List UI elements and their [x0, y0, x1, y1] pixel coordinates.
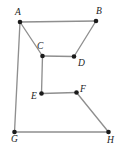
vertex-c — [40, 54, 45, 59]
vertex-label-g: G — [11, 135, 18, 145]
edge-c-e — [42, 56, 43, 94]
vertex-h — [106, 130, 111, 135]
edge-f-h — [77, 93, 109, 133]
edge-e-f — [42, 93, 77, 94]
vertex-label-e: E — [31, 92, 37, 102]
vertex-label-c: C — [37, 42, 43, 52]
graph-figure: ABCDEFGH — [0, 0, 125, 151]
edge-b-d — [74, 21, 96, 57]
vertex-e — [39, 91, 44, 96]
edge-a-b — [20, 21, 96, 22]
vertex-label-d: D — [78, 59, 85, 69]
vertex-d — [72, 54, 77, 59]
vertex-label-b: B — [96, 7, 102, 17]
vertex-a — [18, 20, 23, 25]
vertex-label-f: F — [80, 85, 86, 95]
vertex-label-a: A — [15, 8, 21, 18]
edge-c-d — [43, 56, 75, 57]
vertex-b — [94, 19, 99, 24]
edge-a-g — [15, 22, 21, 132]
edges-group — [15, 21, 109, 132]
vertex-label-h: H — [107, 136, 114, 146]
vertex-f — [74, 90, 79, 95]
graph-canvas — [0, 0, 125, 151]
